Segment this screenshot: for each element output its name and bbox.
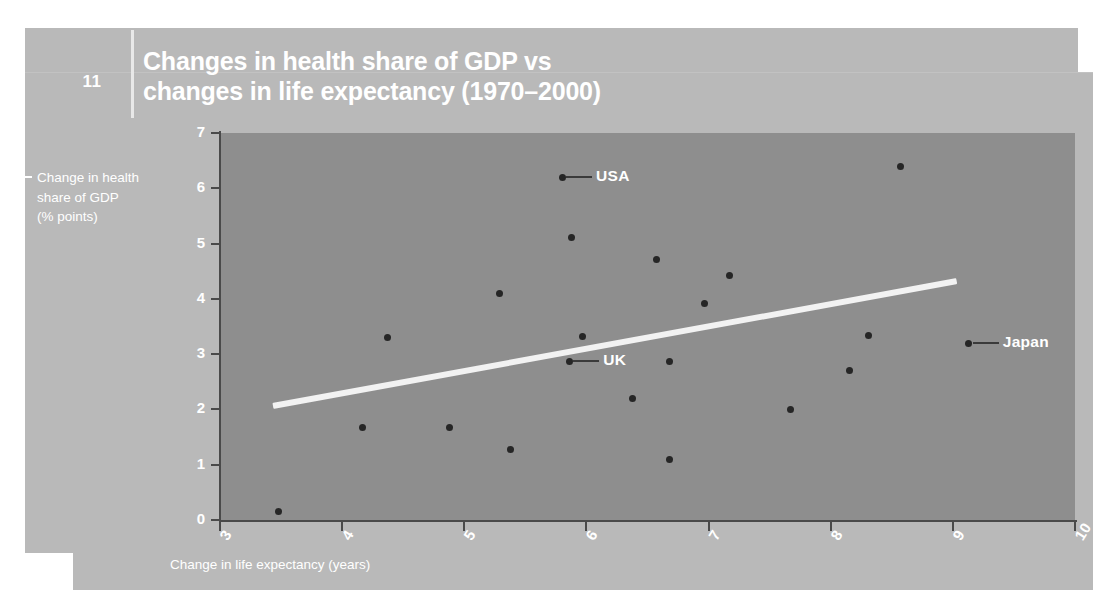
y-tick-label-5: 5 [175,234,205,251]
callout-leader-uk [573,360,599,362]
x-axis-line [219,520,1077,522]
data-point-japan [965,340,972,347]
y-axis-label-line-1: Change in health [37,168,177,188]
data-point [897,163,904,170]
y-axis-label-line-3: (% points) [37,207,177,227]
data-point [653,256,660,263]
y-tick-2 [211,408,220,410]
y-axis-label-dash [23,176,32,178]
callout-leader-japan [973,342,999,344]
callout-label-japan: Japan [1003,333,1049,351]
y-tick-label-3: 3 [175,344,205,361]
y-tick-label-4: 4 [175,289,205,306]
callout-label-uk: UK [603,351,626,369]
callout-leader-usa [566,176,592,178]
slide-canvas: 11 Changes in health share of GDP vs cha… [0,0,1115,605]
data-point [507,446,514,453]
y-tick-6 [211,187,220,189]
header-divider [131,30,134,118]
data-point [726,272,733,279]
y-tick-label-1: 1 [175,455,205,472]
page-title-line-2: changes in life expectancy (1970–2000) [143,76,973,106]
y-tick-label-2: 2 [175,399,205,416]
data-point [846,367,853,374]
y-tick-label-6: 6 [175,178,205,195]
page-title: Changes in health share of GDP vs change… [143,46,973,106]
slide-number: 11 [61,72,123,92]
data-point-usa [559,174,566,181]
y-axis-label-line-2: share of GDP [37,188,177,208]
data-point-uk [566,358,573,365]
data-point [666,358,673,365]
y-tick-label-0: 0 [175,510,205,527]
y-tick-7 [211,132,220,134]
data-point [865,332,872,339]
callout-label-usa: USA [596,167,630,185]
y-tick-5 [211,243,220,245]
data-point [275,508,282,515]
data-point [666,456,673,463]
y-tick-4 [211,298,220,300]
y-tick-1 [211,464,220,466]
page-title-line-1: Changes in health share of GDP vs [143,46,973,76]
scatter-plot-area [220,133,1075,520]
data-point [787,406,794,413]
data-point [384,334,391,341]
data-point [446,424,453,431]
y-tick-3 [211,353,220,355]
x-axis-label: Change in life expectancy (years) [170,557,370,572]
y-axis-label: Change in health share of GDP (% points) [37,168,177,227]
y-tick-label-7: 7 [175,123,205,140]
